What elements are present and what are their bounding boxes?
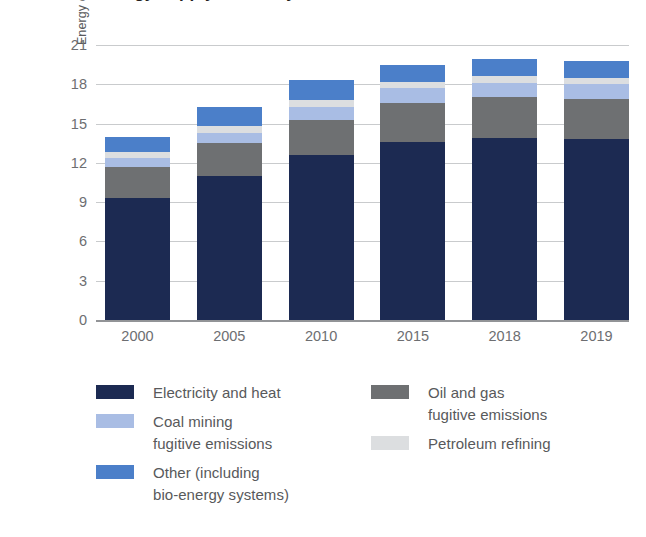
bar-segment[interactable] [289,155,354,320]
bar-segment[interactable] [197,176,262,320]
y-axis-tick-label: 3 [79,273,87,289]
chart-title: Energy supply sector by source [96,0,357,3]
x-axis-tick-label: 2018 [472,328,537,344]
x-axis-tick-label: 2015 [380,328,445,344]
bar-segment[interactable] [105,198,170,320]
bar-segment[interactable] [105,158,170,167]
legend-item[interactable]: Petroleum refining [371,433,551,455]
chart-legend: Electricity and heatCoal mining fugitive… [96,382,636,522]
legend-swatch-icon [371,385,409,399]
gridline-0 [96,320,629,322]
x-axis-tick-label: 2019 [564,328,629,344]
bar-group-2018[interactable]: 2018 [472,59,537,320]
bar-segment[interactable] [105,137,170,153]
plot-area: Energy emissions (GtCO2-eq) 036912151821… [96,45,629,320]
bar-segment[interactable] [289,107,354,120]
bar-segment[interactable] [380,65,445,82]
legend-item-label: Other (including bio-energy systems) [153,462,289,506]
bar-segment[interactable] [197,143,262,176]
bar-segment[interactable] [564,84,629,98]
bar-segment[interactable] [197,107,262,127]
bar-segment[interactable] [472,59,537,76]
y-axis-tick-label: 21 [71,37,87,53]
x-axis-tick-label: 2005 [197,328,262,344]
legend-swatch-icon [96,465,134,479]
legend-item-label: Coal mining fugitive emissions [153,411,272,455]
chart-title-strip: Energy supply sector by source [0,0,646,13]
bar-segment[interactable] [289,120,354,155]
bar-segment[interactable] [380,88,445,102]
bar-segment[interactable] [289,80,354,100]
bar-segment[interactable] [472,138,537,320]
x-axis-tick-label: 2000 [105,328,170,344]
x-axis-tick-label: 2010 [289,328,354,344]
y-axis-tick-label: 18 [71,76,87,92]
legend-item[interactable]: Other (including bio-energy systems) [96,462,289,506]
bar-group-2019[interactable]: 2019 [564,61,629,320]
bar-group-2010[interactable]: 2010 [289,80,354,320]
bar-segment[interactable] [564,139,629,320]
legend-item-label: Petroleum refining [428,433,551,455]
legend-item-label: Oil and gas fugitive emissions [428,382,547,426]
bar-segment[interactable] [380,103,445,142]
legend-item[interactable]: Electricity and heat [96,382,281,404]
bar-group-2015[interactable]: 2015 [380,65,445,320]
legend-swatch-icon [96,414,134,428]
bar-segment[interactable] [472,97,537,138]
y-axis-tick-label: 9 [79,194,87,210]
y-axis-tick-label: 0 [79,312,87,328]
bar-group-2000[interactable]: 2000 [105,137,170,320]
legend-item[interactable]: Coal mining fugitive emissions [96,411,272,455]
legend-swatch-icon [371,436,409,450]
bar-segment[interactable] [105,167,170,198]
y-axis-tick-label: 6 [79,233,87,249]
bar-segment[interactable] [564,61,629,78]
bar-segment[interactable] [564,99,629,140]
legend-item-label: Electricity and heat [153,382,281,404]
legend-swatch-icon [96,385,134,399]
legend-item[interactable]: Oil and gas fugitive emissions [371,382,547,426]
bar-segment[interactable] [380,142,445,320]
bar-series-container: 200020052010201520182019 [96,45,629,320]
bar-group-2005[interactable]: 2005 [197,107,262,320]
bar-segment[interactable] [197,133,262,143]
bar-segment[interactable] [472,83,537,97]
y-axis-tick-label: 12 [71,155,87,171]
y-axis-tick-label: 15 [71,116,87,132]
